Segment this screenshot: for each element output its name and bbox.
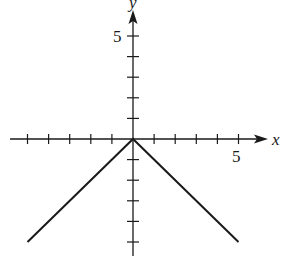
y-tick-label-5: 5: [113, 27, 122, 46]
function-graph: x y 5 5: [0, 0, 284, 264]
x-tick-label-5: 5: [232, 147, 241, 166]
y-axis-label: y: [127, 0, 137, 12]
x-axis-label: x: [271, 130, 280, 149]
